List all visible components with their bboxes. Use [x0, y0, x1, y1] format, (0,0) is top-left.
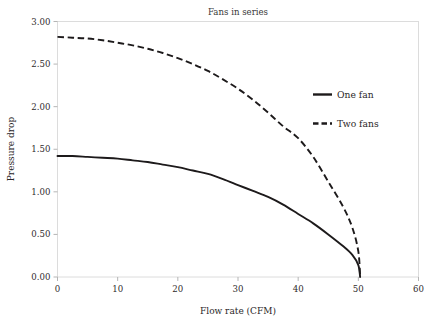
x-axis-tick-labels: 0102030405060 — [55, 284, 424, 294]
plot-area-border — [58, 22, 419, 278]
chart-title: Fans in series — [208, 7, 268, 17]
y-axis-label: Pressure drop — [6, 117, 16, 182]
y-axis-ticks — [54, 22, 58, 278]
x-tick-label: 40 — [293, 284, 304, 294]
y-tick-label: 0.50 — [31, 229, 50, 239]
x-axis-ticks — [58, 277, 419, 281]
x-tick-label: 30 — [233, 284, 244, 294]
y-tick-label: 2.50 — [31, 59, 50, 69]
x-axis-label: Flow rate (CFM) — [200, 306, 276, 316]
legend-label-two-fans: Two fans — [337, 118, 379, 129]
x-tick-label: 50 — [353, 284, 364, 294]
y-tick-label: 1.00 — [31, 187, 50, 197]
y-tick-label: 1.50 — [31, 144, 50, 154]
y-tick-label: 3.00 — [31, 17, 50, 27]
x-tick-label: 60 — [413, 284, 424, 294]
chart-canvas: 0.000.501.001.502.002.503.00 01020304050… — [0, 0, 440, 324]
legend-label-one-fan: One fan — [337, 89, 374, 100]
x-tick-label: 0 — [55, 284, 60, 294]
x-tick-label: 20 — [172, 284, 183, 294]
y-tick-label: 0.00 — [31, 272, 50, 282]
y-axis-tick-labels: 0.000.501.001.502.002.503.00 — [31, 17, 50, 283]
chart-figure: 0.000.501.001.502.002.503.00 01020304050… — [0, 0, 440, 324]
y-tick-label: 2.00 — [31, 102, 50, 112]
x-tick-label: 10 — [112, 284, 123, 294]
